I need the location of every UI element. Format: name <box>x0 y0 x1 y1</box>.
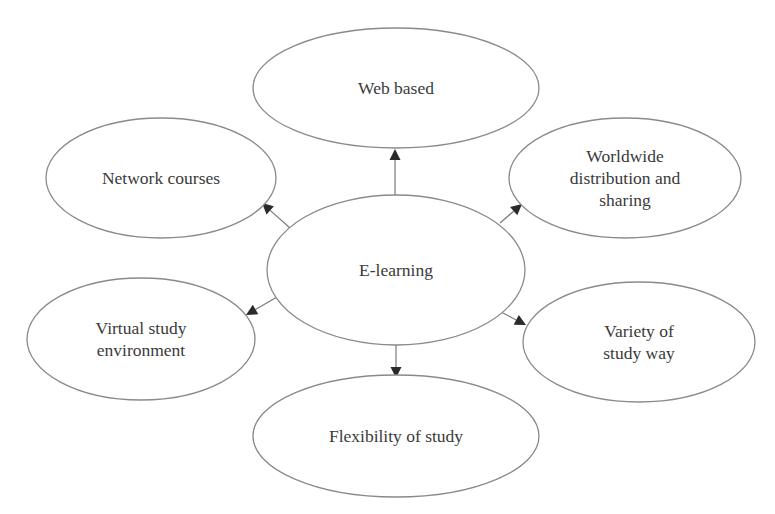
connector-line <box>270 210 290 228</box>
node-label: E-learning <box>359 260 433 280</box>
arrowhead-icon <box>510 204 522 215</box>
edge-worldwide-distribution <box>500 204 522 223</box>
node-label-line: study way <box>603 343 675 363</box>
node-label-line: E-learning <box>359 260 433 280</box>
edge-web-based <box>390 149 401 195</box>
arrowhead-icon <box>246 305 258 315</box>
node-worldwide-distribution: Worldwidedistribution andsharing <box>509 118 741 238</box>
node-label: Web based <box>358 78 434 98</box>
node-web-based: Web based <box>253 28 539 148</box>
node-label-line: sharing <box>599 190 651 210</box>
node-label-line: Worldwide <box>586 146 664 166</box>
arrowhead-icon <box>390 149 401 160</box>
node-label-line: Flexibility of study <box>329 426 463 446</box>
node-label: Network courses <box>102 168 220 188</box>
connector-line <box>501 312 516 320</box>
nodes: E-learningWeb basedNetwork coursesWorldw… <box>27 28 755 497</box>
central-node-e-learning: E-learning <box>267 195 525 345</box>
edge-variety-of-study-way <box>501 312 526 325</box>
node-label-line: Network courses <box>102 168 220 188</box>
connector-line <box>256 297 277 309</box>
edge-flexibility-of-study <box>391 345 402 378</box>
node-label-line: Web based <box>358 78 434 98</box>
node-label-line: Variety of <box>604 321 674 341</box>
node-ellipse <box>27 278 255 400</box>
edge-network-courses <box>262 203 290 228</box>
edge-virtual-study-environment <box>246 297 277 315</box>
node-label: Flexibility of study <box>329 426 463 446</box>
node-virtual-study-environment: Virtual studyenvironment <box>27 278 255 400</box>
node-label-line: distribution and <box>570 168 681 188</box>
e-learning-diagram: E-learningWeb basedNetwork coursesWorldw… <box>0 0 775 514</box>
node-label-line: Virtual study <box>96 318 187 338</box>
connector-line <box>500 211 514 223</box>
node-network-courses: Network courses <box>46 118 276 238</box>
node-ellipse <box>523 282 755 402</box>
node-variety-of-study-way: Variety ofstudy way <box>523 282 755 402</box>
node-label-line: environment <box>97 340 186 360</box>
node-flexibility-of-study: Flexibility of study <box>253 375 539 497</box>
